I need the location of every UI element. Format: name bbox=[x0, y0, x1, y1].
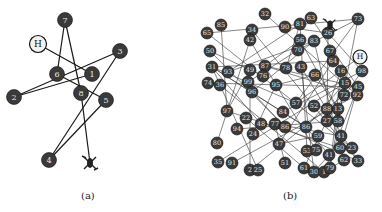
node-label: 32 bbox=[261, 10, 269, 18]
node-label: 41 bbox=[325, 151, 333, 159]
graph-node: 85 bbox=[215, 19, 227, 31]
graph-node: 24 bbox=[247, 128, 259, 140]
node-label: 84 bbox=[279, 108, 287, 116]
node-label: 4 bbox=[46, 156, 51, 165]
graph-node: 93 bbox=[222, 66, 234, 78]
graph-node: 60 bbox=[334, 142, 346, 154]
drone-icon bbox=[82, 156, 98, 170]
graph-node: 63 bbox=[305, 12, 317, 24]
node-label: 51 bbox=[281, 159, 289, 167]
panel-a: 73612854H bbox=[7, 13, 128, 171]
edge bbox=[49, 100, 106, 160]
node-label: 24 bbox=[249, 130, 257, 138]
graph-figure: 73612854H 328590816373653426425683507067… bbox=[0, 0, 382, 212]
graph-node: 47 bbox=[273, 138, 285, 150]
node-label: 74 bbox=[204, 79, 212, 87]
node-label: 57 bbox=[292, 99, 300, 107]
graph-node: 97 bbox=[221, 105, 233, 117]
graph-node: 73 bbox=[352, 13, 364, 25]
graph-node: 66 bbox=[309, 69, 321, 81]
graph-node: 1 bbox=[85, 67, 100, 82]
node-label: 2 bbox=[11, 93, 16, 102]
graph-node: 98 bbox=[356, 65, 368, 77]
graph-node: 16 bbox=[335, 65, 347, 77]
node-label: 58 bbox=[334, 117, 342, 125]
node-label: 63 bbox=[307, 14, 315, 22]
node-label: 27 bbox=[323, 117, 331, 125]
graph-node: 59 bbox=[312, 130, 324, 142]
graph-node: 2 bbox=[7, 90, 22, 105]
node-label: 86 bbox=[281, 123, 289, 131]
node-label: 59 bbox=[314, 132, 322, 140]
graph-node: 49 bbox=[244, 64, 256, 76]
node-label: 99 bbox=[244, 78, 252, 86]
node-label: 41 bbox=[337, 132, 345, 140]
graph-node: 76 bbox=[257, 70, 269, 82]
home-node: H bbox=[30, 36, 47, 53]
node-label: 15 bbox=[341, 79, 349, 87]
node-label: 7 bbox=[62, 16, 67, 25]
node-label: 36 bbox=[216, 81, 224, 89]
graph-node: 83 bbox=[308, 35, 320, 47]
graph-node: 75 bbox=[310, 144, 322, 156]
graph-node: 43 bbox=[295, 61, 307, 73]
node-label: 3 bbox=[117, 47, 122, 56]
node-label: 72 bbox=[340, 91, 348, 99]
node-label: 85 bbox=[217, 21, 225, 29]
graph-node: 36 bbox=[214, 79, 226, 91]
graph-node: 13 bbox=[332, 103, 344, 115]
node-label: 88 bbox=[323, 105, 331, 113]
node-label: 65 bbox=[203, 29, 211, 37]
node-label: 86 bbox=[302, 123, 310, 131]
node-label: 98 bbox=[358, 67, 366, 75]
node-label: 49 bbox=[246, 66, 254, 74]
node-label: 79 bbox=[326, 164, 334, 172]
node-label: 87 bbox=[261, 62, 269, 70]
graph-node: 51 bbox=[279, 157, 291, 169]
node-label: 48 bbox=[257, 120, 265, 128]
node-label: 56 bbox=[296, 36, 304, 44]
graph-node: 27 bbox=[321, 115, 333, 127]
graph-node: 81 bbox=[294, 18, 306, 30]
node-label: 67 bbox=[326, 47, 334, 55]
graph-node: 80 bbox=[211, 137, 223, 149]
graph-node: 23 bbox=[346, 142, 358, 154]
graph-node: 42 bbox=[244, 34, 256, 46]
node-label: 35 bbox=[214, 158, 222, 166]
graph-node: 92 bbox=[351, 89, 363, 101]
node-label: 73 bbox=[354, 15, 362, 23]
node-label: 66 bbox=[311, 71, 319, 79]
node-label: 60 bbox=[336, 144, 344, 152]
caption-b: (b) bbox=[283, 190, 297, 201]
edge bbox=[14, 51, 120, 97]
graph-node: 6 bbox=[50, 67, 65, 82]
panel-b: 3285908163736534264256835070676431934987… bbox=[201, 8, 368, 178]
graph-node: 58 bbox=[332, 115, 344, 127]
node-label: 64 bbox=[329, 57, 337, 65]
graph-node: 62 bbox=[338, 154, 350, 166]
graph-node: 8 bbox=[74, 86, 89, 101]
graph-node: 33 bbox=[352, 155, 364, 167]
node-label: 95 bbox=[272, 81, 280, 89]
node-label: 77 bbox=[271, 120, 279, 128]
graph-node: 86 bbox=[279, 121, 291, 133]
graph-node: 15 bbox=[339, 77, 351, 89]
node-label: 23 bbox=[348, 144, 356, 152]
edge bbox=[38, 44, 92, 74]
graph-node: 91 bbox=[226, 157, 238, 169]
graph-node: 94 bbox=[231, 123, 243, 135]
graph-node: 79 bbox=[324, 162, 336, 174]
graph-node: 41 bbox=[335, 130, 347, 142]
node-label: 30 bbox=[310, 168, 318, 176]
node-label: 78 bbox=[282, 64, 290, 72]
graph-node: 65 bbox=[201, 27, 213, 39]
graph-node: 50 bbox=[204, 45, 216, 57]
node-label: 52 bbox=[310, 102, 318, 110]
graph-node: 70 bbox=[292, 44, 304, 56]
edge bbox=[57, 20, 65, 74]
home-label: H bbox=[357, 52, 364, 61]
node-label: 97 bbox=[223, 107, 231, 115]
graph-node: 90 bbox=[279, 21, 291, 33]
node-label: 33 bbox=[354, 157, 362, 165]
home-node: H bbox=[353, 50, 367, 64]
